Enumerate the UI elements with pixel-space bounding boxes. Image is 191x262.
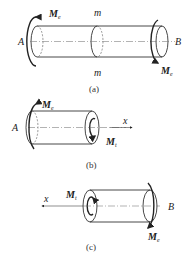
label-B: B xyxy=(175,36,181,47)
label-Me-right: Me xyxy=(160,65,173,77)
caption-a: (a) xyxy=(89,84,99,94)
torsion-shaft-diagram: A B m m Me Me (a) A x Me Mt (b) x B M xyxy=(0,0,191,262)
panel-c-right-segment: x B Mt Me (c) xyxy=(42,183,174,252)
label-x-b: x xyxy=(122,115,128,126)
label-section-m-bottom: m xyxy=(94,67,101,78)
caption-c: (c) xyxy=(86,242,96,252)
label-x-c: x xyxy=(43,193,49,204)
caption-b: (b) xyxy=(86,160,97,170)
panel-b-left-segment: A x Me Mt (b) xyxy=(11,99,132,170)
label-B-c: B xyxy=(168,201,174,212)
label-Mt-b: Mt xyxy=(105,136,117,148)
label-Me-b: Me xyxy=(41,99,54,111)
label-section-m-top: m xyxy=(94,7,101,18)
label-A-b: A xyxy=(11,122,19,133)
panel-a-full-shaft: A B m m Me Me (a) xyxy=(17,7,181,94)
label-Mt-c: Mt xyxy=(65,189,77,201)
label-Me-c: Me xyxy=(147,231,160,243)
label-A: A xyxy=(17,36,25,47)
label-Me-left: Me xyxy=(48,8,61,20)
